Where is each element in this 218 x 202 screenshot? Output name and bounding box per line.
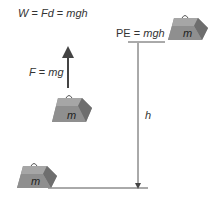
mgh-term: mgh: [143, 27, 164, 39]
mg-term: mg: [48, 66, 63, 78]
force-symbol: F: [29, 66, 36, 78]
mass-label-bottom: m: [31, 176, 40, 187]
height-label: h: [145, 110, 151, 121]
force-label: F = mg: [29, 67, 64, 78]
work-symbol: W: [18, 7, 28, 19]
mass-label-top: m: [183, 28, 192, 39]
force-distance: Fd: [41, 7, 54, 19]
equals-sign: =: [131, 27, 144, 39]
pe-symbol: PE: [116, 27, 131, 39]
equals-sign: =: [28, 7, 41, 19]
equals-sign: =: [54, 7, 67, 19]
work-equation: W = Fd = mgh: [18, 8, 88, 19]
mass-label-middle: m: [67, 110, 76, 121]
equals-sign: =: [36, 66, 49, 78]
mgh-term: mgh: [66, 7, 87, 19]
potential-energy-label: PE = mgh: [116, 28, 165, 39]
